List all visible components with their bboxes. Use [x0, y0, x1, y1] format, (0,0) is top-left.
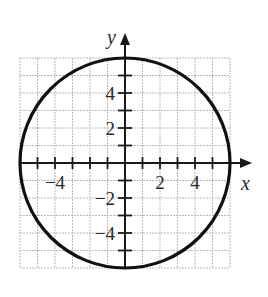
x-axis-label: x — [240, 172, 250, 194]
y-tick-label: 2 — [106, 118, 116, 139]
y-tick-label: 4 — [106, 83, 116, 104]
y-tick-label: −2 — [95, 188, 115, 209]
x-tick-label: 2 — [155, 172, 165, 193]
y-axis-arrow-icon — [120, 33, 130, 45]
y-axis-label: y — [105, 26, 116, 49]
x-tick-label: −4 — [45, 172, 66, 193]
circle-graph: −42442−2−4 x y — [0, 0, 268, 297]
x-axis-arrow-icon — [240, 158, 252, 168]
y-tick-label: −4 — [95, 223, 116, 244]
x-tick-label: 4 — [190, 172, 200, 193]
